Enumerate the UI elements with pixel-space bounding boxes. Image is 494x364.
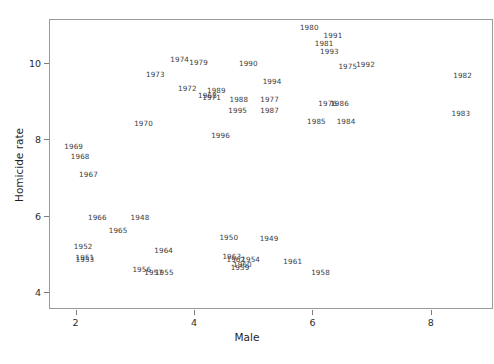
data-point-label: 1982 [453, 72, 472, 79]
data-point-label: 1979 [189, 60, 208, 67]
scatter-plot-figure: Homicide rate 46810 2468 198019911981199… [0, 0, 494, 364]
y-tick-label: 10 [29, 57, 41, 68]
y-axis-title: Homicide rate [0, 0, 38, 330]
y-tick-label: 8 [35, 134, 41, 145]
data-point-label: 1969 [64, 143, 83, 150]
data-point-label: 1993 [320, 48, 339, 55]
data-point-label: 1967 [79, 171, 98, 178]
data-point-label: 1966 [88, 214, 107, 221]
x-tick-mark [431, 310, 432, 315]
data-point-label: 1977 [260, 97, 279, 104]
data-point-label: 1971 [202, 95, 221, 102]
x-tick-label: 4 [191, 317, 197, 328]
y-axis-title-text: Homicide rate [13, 128, 25, 202]
data-point-label: 1970 [134, 121, 153, 128]
data-point-label: 1961 [283, 259, 302, 266]
data-point-label: 1950 [219, 234, 238, 241]
data-point-label: 1952 [74, 243, 93, 250]
data-point-label: 1988 [229, 97, 248, 104]
data-point-label: 1948 [131, 214, 150, 221]
data-point-label: 1968 [71, 154, 90, 161]
data-point-label: 1973 [146, 72, 165, 79]
data-point-label: 1986 [330, 100, 349, 107]
y-tick-label: 4 [35, 286, 41, 297]
data-point-label: 1955 [155, 269, 174, 276]
data-point-label: 1984 [337, 119, 356, 126]
data-point-label: 1953 [76, 257, 95, 264]
data-point-label: 1974 [170, 56, 189, 63]
x-tick-mark [76, 310, 77, 315]
data-points-layer: 1980199119811993197419791990197519921973… [50, 20, 492, 308]
x-axis-title: Male [0, 331, 494, 343]
data-point-label: 1983 [451, 111, 470, 118]
data-point-label: 1965 [109, 227, 128, 234]
data-point-label: 1959 [231, 264, 250, 271]
data-point-label: 1958 [311, 269, 330, 276]
data-point-label: 1980 [300, 24, 319, 31]
data-point-label: 1990 [239, 60, 258, 67]
data-point-label: 1995 [228, 107, 247, 114]
data-point-label: 1975 [338, 63, 357, 70]
x-tick-mark [312, 310, 313, 315]
data-point-label: 1987 [260, 107, 279, 114]
data-point-label: 1964 [154, 247, 173, 254]
x-tick-label: 6 [309, 317, 315, 328]
data-point-label: 1972 [178, 86, 197, 93]
x-tick-mark [194, 310, 195, 315]
data-point-label: 1985 [307, 119, 326, 126]
data-point-label: 1949 [260, 235, 279, 242]
plot-panel: 1980199119811993197419791990197519921973… [49, 19, 493, 309]
y-tick-label: 6 [35, 210, 41, 221]
data-point-label: 1996 [211, 133, 230, 140]
data-point-label: 1992 [356, 62, 375, 69]
y-axis-label-zone: Homicide rate [0, 0, 38, 330]
data-point-label: 1994 [263, 78, 282, 85]
x-tick-label: 2 [73, 317, 79, 328]
x-tick-label: 8 [428, 317, 434, 328]
